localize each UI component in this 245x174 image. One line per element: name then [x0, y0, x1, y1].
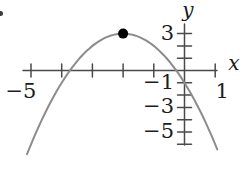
- parabola-graph: −513−1−3−5 y x: [0, 0, 245, 174]
- x-tick-label: 1: [216, 79, 229, 103]
- y-axis-label: y: [181, 0, 194, 22]
- y-tick-label: 3: [161, 21, 174, 45]
- x-tick-label: −5: [6, 79, 37, 103]
- parabola-curve: [27, 34, 217, 155]
- vertex-point: [118, 29, 128, 39]
- x-axis-label: x: [228, 51, 239, 75]
- parabola-figure: −513−1−3−5 y x: [0, 0, 245, 174]
- y-tick-label: −3: [143, 94, 174, 118]
- y-tick-label: −5: [143, 119, 174, 143]
- axes-group: [23, 24, 217, 145]
- y-tick-label: −1: [143, 70, 174, 94]
